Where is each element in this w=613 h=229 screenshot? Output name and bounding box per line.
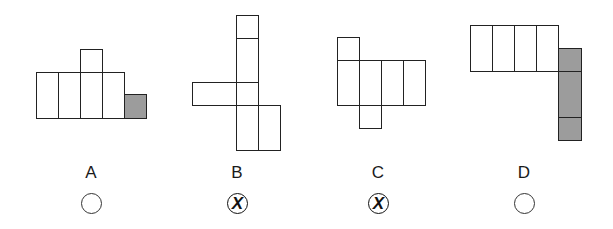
net-face (258, 105, 281, 151)
net-face (236, 105, 259, 151)
option-label-a: A (76, 163, 106, 183)
cross-mark-icon: X (228, 194, 247, 213)
net-face (236, 38, 259, 83)
shaded-face (558, 48, 582, 72)
net-face (236, 15, 259, 39)
cross-mark-icon: X (369, 194, 388, 213)
net-face (236, 82, 259, 106)
option-label-b: B (222, 163, 252, 183)
net-face (80, 49, 103, 73)
answer-radio-c[interactable]: X (368, 193, 389, 214)
shaded-face (558, 71, 582, 118)
net-face (58, 72, 81, 119)
option-label-d: D (509, 163, 539, 183)
net-face (102, 72, 125, 119)
net-face (36, 72, 59, 119)
net-face (359, 60, 382, 106)
net-face (337, 60, 360, 106)
net-face (536, 25, 559, 72)
option-label-c: C (363, 163, 393, 183)
net-face (514, 25, 537, 72)
answer-radio-d[interactable] (514, 193, 535, 214)
net-face (337, 37, 360, 61)
shaded-face (558, 117, 582, 141)
net-face (381, 60, 404, 106)
answer-radio-a[interactable] (81, 193, 102, 214)
net-face (492, 25, 515, 72)
net-face (192, 82, 237, 106)
net-face (359, 105, 382, 129)
net-face (403, 60, 426, 106)
net-options-question: A B X C X D (0, 0, 613, 229)
net-face (470, 25, 493, 72)
shaded-face (124, 94, 147, 119)
net-face (80, 72, 103, 119)
answer-radio-b[interactable]: X (227, 193, 248, 214)
